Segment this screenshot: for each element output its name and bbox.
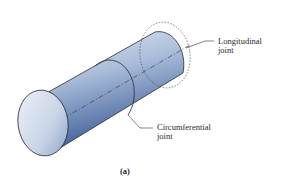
circumferential-label-line2: joint [157, 132, 211, 141]
circumferential-leader-line [128, 115, 153, 128]
longitudinal-label-line2: joint [218, 46, 262, 55]
longitudinal-joint-label: Longitudinal joint [218, 37, 262, 55]
longitudinal-leader-line [186, 41, 214, 48]
figure-caption: (a) [120, 167, 130, 176]
circumferential-joint-label: Circumferential joint [157, 123, 211, 141]
cylinder-diagram [0, 0, 285, 188]
